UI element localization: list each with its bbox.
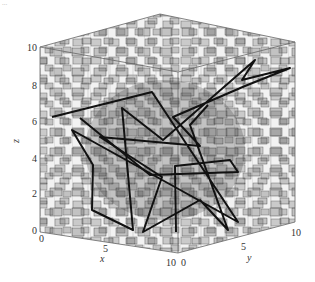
- svg-text:0: 0: [39, 233, 44, 244]
- svg-text:10: 10: [291, 227, 301, 238]
- svg-text:2: 2: [32, 188, 37, 199]
- svg-text:0: 0: [181, 257, 186, 268]
- svg-text:10: 10: [27, 42, 37, 53]
- svg-text:6: 6: [32, 116, 37, 127]
- z-axis-label: z: [10, 139, 21, 144]
- svg-text:4: 4: [32, 153, 37, 164]
- y-axis-label: y: [246, 252, 252, 263]
- z-axis-ticks: 10 8 6 4 2 0: [27, 42, 37, 236]
- svg-text:0: 0: [32, 225, 37, 236]
- svg-text:10: 10: [166, 257, 176, 268]
- clipped-caption-text: ...: [2, 0, 8, 7]
- svg-text:8: 8: [32, 80, 37, 91]
- voxel-3d-chart: ... 10 8 6 4 2 0 z 0 5: [0, 0, 315, 282]
- x-axis-label: x: [99, 253, 105, 264]
- svg-text:5: 5: [241, 241, 246, 252]
